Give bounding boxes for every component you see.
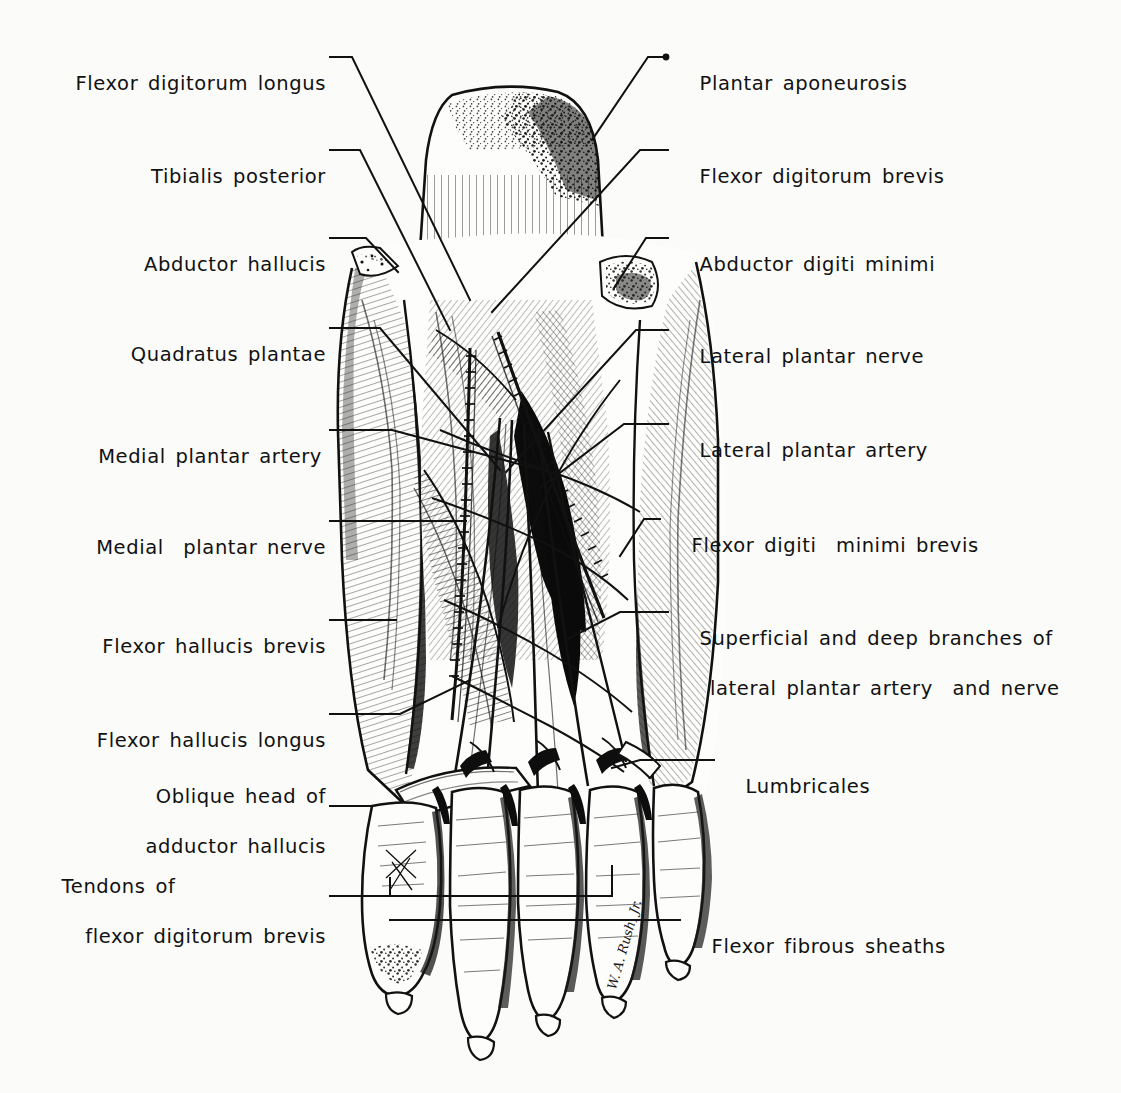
label-tendons-flexor-digitorum-brevis: Tendons of flexor digitorum brevis: [0, 849, 326, 974]
label-flexor-digitorum-brevis: Flexor digitorum brevis: [680, 139, 945, 189]
label-text: Lateral plantar artery: [700, 439, 928, 462]
label-text: Flexor digitorum brevis: [700, 165, 945, 188]
label-text: Abductor digiti minimi: [700, 253, 936, 276]
label-lumbricales: Lumbricales: [726, 749, 870, 799]
label-text-line2: lateral plantar artery and nerve: [680, 676, 1060, 701]
label-quadratus-plantae: Quadratus plantae: [0, 317, 326, 367]
label-flexor-digitorum-longus: Flexor digitorum longus: [0, 46, 326, 96]
label-flexor-digiti-minimi-brevis: Flexor digiti minimi brevis: [672, 508, 979, 558]
label-tibialis-posterior: Tibialis posterior: [0, 139, 326, 189]
label-text: Flexor hallucis longus: [97, 729, 326, 752]
label-text-line1: Superficial and deep branches of: [700, 627, 1053, 650]
label-text: Abductor hallucis: [144, 253, 326, 276]
plantar-aponeurosis-arrowhead: [663, 54, 670, 61]
label-abductor-hallucis: Abductor hallucis: [0, 227, 326, 277]
label-text: Tibialis posterior: [151, 165, 326, 188]
label-text: Plantar aponeurosis: [700, 72, 908, 95]
label-text: Quadratus plantae: [131, 343, 326, 366]
label-text-line2: flexor digitorum brevis: [42, 924, 326, 949]
label-lateral-plantar-artery: Lateral plantar artery: [680, 413, 928, 463]
label-text: Flexor fibrous sheaths: [712, 935, 946, 958]
label-text-line1: Tendons of: [62, 875, 176, 898]
label-text: Lumbricales: [746, 775, 871, 798]
label-text: Flexor hallucis brevis: [102, 635, 326, 658]
figure-canvas: Flexor digitorum longus Tibialis posteri…: [0, 0, 1121, 1093]
label-plantar-aponeurosis: Plantar aponeurosis: [680, 46, 908, 96]
label-text: Medial plantar nerve: [96, 536, 326, 559]
label-flexor-hallucis-brevis: Flexor hallucis brevis: [0, 609, 326, 659]
label-text: Lateral plantar nerve: [700, 345, 924, 368]
label-text-line1: Oblique head of: [156, 785, 326, 808]
label-superficial-deep-branches: Superficial and deep branches of lateral…: [680, 601, 1060, 726]
label-flexor-hallucis-longus: Flexor hallucis longus: [0, 703, 326, 753]
label-text: Flexor digiti minimi brevis: [692, 534, 979, 557]
label-text: Flexor digitorum longus: [75, 72, 326, 95]
label-medial-plantar-artery: Medial plantar artery: [0, 419, 322, 469]
label-flexor-fibrous-sheaths: Flexor fibrous sheaths: [692, 909, 946, 959]
label-text: Medial plantar artery: [98, 445, 322, 468]
label-lateral-plantar-nerve: Lateral plantar nerve: [680, 319, 924, 369]
label-abductor-digiti-minimi: Abductor digiti minimi: [680, 227, 935, 277]
label-medial-plantar-nerve: Medial plantar nerve: [0, 510, 326, 560]
